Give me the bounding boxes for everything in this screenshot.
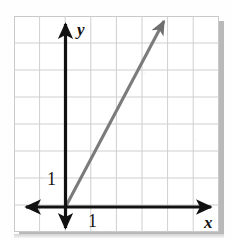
plot-canvas	[0, 0, 233, 241]
x-axis-tick-label-1: 1	[88, 212, 97, 230]
y-axis-label: y	[77, 21, 85, 38]
x-axis-label: x	[204, 214, 213, 231]
grid-lines	[14, 16, 219, 232]
graph-figure: y x 1 1	[0, 0, 233, 241]
plotted-line	[66, 21, 165, 207]
y-axis-tick-label-1: 1	[47, 170, 56, 188]
page-bottom-edge	[14, 234, 224, 238]
